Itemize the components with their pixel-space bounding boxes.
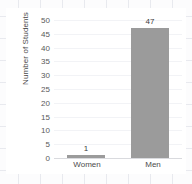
y-axis-tick-label: 30 [41,71,50,80]
y-axis-tick-label: 25 [41,85,50,94]
bar-chart: Number of Students 504540353025201510501… [6,8,186,174]
bar-value-label: 1 [84,144,88,153]
y-axis-tick-label: 5 [46,140,50,149]
y-axis-tick-label: 20 [41,98,50,107]
bar-men[interactable]: 47 [131,28,168,158]
bar-value-label: 47 [146,17,155,26]
y-axis-title: Number of Students [21,0,30,101]
gridline [54,158,182,159]
y-axis-tick-label: 50 [41,16,50,25]
bar-women[interactable]: 1 [67,155,104,158]
plot-inner: 50454035302520151050147 [54,20,182,158]
y-axis-tick-label: 10 [41,126,50,135]
y-axis-tick-label: 0 [46,154,50,163]
x-axis-tick-label: Women [73,160,100,169]
y-axis-tick-label: 15 [41,112,50,121]
x-axis-labels: WomenMen [54,160,186,174]
x-axis-tick-label: Men [145,160,161,169]
plot-area: 50454035302520151050147 [54,12,182,158]
y-axis-tick-label: 35 [41,57,50,66]
y-axis-tick-label: 45 [41,29,50,38]
y-axis-tick-label: 40 [41,43,50,52]
chart-page: Number of Students 504540353025201510501… [0,0,192,184]
gridline [54,20,182,21]
